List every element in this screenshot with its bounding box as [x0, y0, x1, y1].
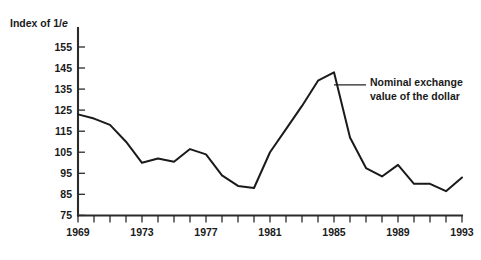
y-axis-title-prefix: Index of 1/ — [10, 17, 62, 29]
annotation-label-line2: value of the dollar — [370, 90, 460, 102]
y-tick-label-145: 145 — [54, 62, 72, 74]
x-tick-label-1981: 1981 — [258, 226, 282, 238]
x-tick-label-1969: 1969 — [66, 226, 90, 238]
annotation-label-line1: Nominal exchange — [370, 76, 463, 88]
x-tick-label-1977: 1977 — [194, 226, 218, 238]
x-tick-label-1973: 1973 — [130, 226, 154, 238]
y-tick-label-125: 125 — [54, 104, 72, 116]
y-axis-title-italic-e: e — [62, 17, 68, 29]
y-tick-label-75: 75 — [60, 209, 72, 221]
x-tick-label-1985: 1985 — [322, 226, 346, 238]
y-tick-label-95: 95 — [60, 167, 72, 179]
y-tick-label-85: 85 — [60, 188, 72, 200]
x-tick-label-1993: 1993 — [450, 226, 474, 238]
y-axis-title: Index of 1/e — [10, 17, 68, 29]
y-tick-label-135: 135 — [54, 83, 72, 95]
y-tick-label-105: 105 — [54, 146, 72, 158]
chart-canvas: 155 145 135 125 115 105 95 85 75 Index o… — [0, 0, 481, 260]
y-tick-label-155: 155 — [54, 41, 72, 53]
x-tick-label-1989: 1989 — [386, 226, 410, 238]
exchange-rate-chart-figure: 155 145 135 125 115 105 95 85 75 Index o… — [0, 0, 481, 260]
y-tick-label-115: 115 — [55, 125, 72, 137]
